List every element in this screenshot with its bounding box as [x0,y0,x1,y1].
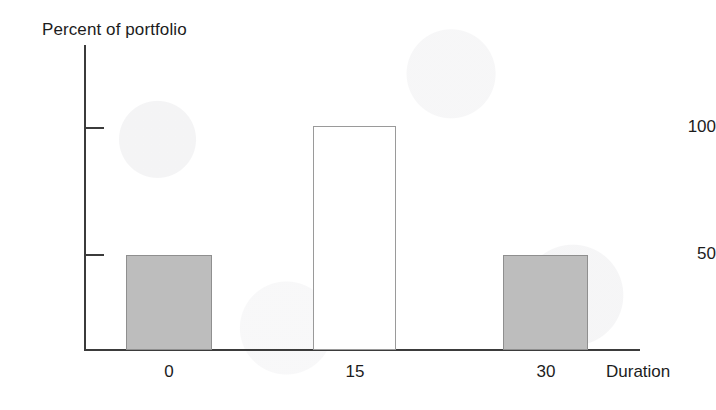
x-tick-label-30: 30 [521,362,571,382]
y-axis-line [84,45,86,351]
x-tick-label-0: 0 [144,362,194,382]
bar-chart-figure: Percent of portfolio 100 50 0 15 30 Dura… [0,0,716,410]
bar-duration-15 [313,126,396,350]
y-axis-title: Percent of portfolio [42,20,187,40]
x-tick-label-15: 15 [330,362,380,382]
x-axis-title: Duration [606,362,670,382]
bar-duration-0 [126,255,212,350]
bar-duration-30 [503,255,588,350]
